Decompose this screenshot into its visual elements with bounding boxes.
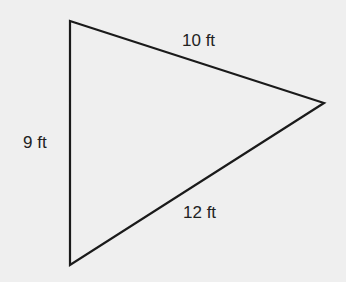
- side-label-left: 9 ft: [23, 133, 47, 153]
- triangle: [70, 21, 324, 265]
- side-label-bottom: 12 ft: [183, 203, 216, 223]
- triangle-diagram: [0, 0, 346, 282]
- side-label-top: 10 ft: [182, 31, 215, 51]
